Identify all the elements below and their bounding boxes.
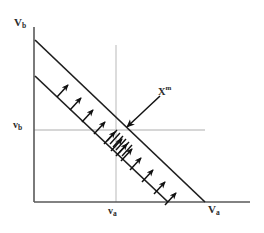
band-arrow [130, 158, 141, 170]
xm-annotation-label: Xm [158, 86, 171, 97]
figure-container: Vb vb va Va Xm [0, 0, 264, 233]
band-arrow [57, 85, 68, 97]
band-arrow [165, 193, 176, 205]
axes-group [34, 27, 250, 202]
band-arrow [154, 182, 165, 194]
band-arrow [82, 110, 93, 122]
diagram-canvas [0, 0, 264, 233]
y-axis-label: Vb [14, 16, 26, 28]
band-arrow [142, 170, 153, 182]
constraint-lines-group [35, 40, 205, 202]
lower-constraint-line [35, 76, 168, 202]
band-arrow [94, 122, 105, 134]
cluster-hatch [119, 142, 129, 153]
y-level-label: vb [13, 119, 22, 130]
band-arrow [70, 98, 81, 110]
cluster-hatch [113, 136, 123, 147]
upper-constraint-line [35, 40, 205, 202]
x-axis-label: Va [208, 203, 220, 215]
xm-leader-line [127, 96, 160, 127]
x-level-label: va [108, 205, 117, 216]
